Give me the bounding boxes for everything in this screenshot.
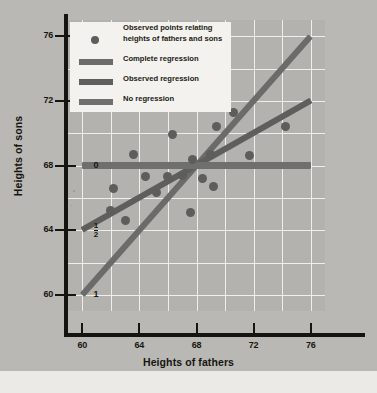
legend-item: Observed points relatingheights of fathe…	[71, 27, 230, 45]
x-axis-tick	[253, 323, 255, 334]
data-point	[281, 122, 290, 131]
data-point	[141, 172, 150, 181]
y-axis-tick	[55, 100, 64, 102]
x-axis-tick	[196, 323, 198, 334]
chart-figure: 76726864606064687276 0121 Heights of fat…	[0, 0, 377, 393]
y-axis-tick	[55, 35, 64, 37]
chart-legend: Observed points relatingheights of fathe…	[70, 22, 231, 112]
x-axis-tick	[81, 323, 83, 334]
paper-speckle	[71, 205, 72, 206]
y-axis-tick-label: 76	[13, 30, 53, 40]
y-axis-tick	[55, 229, 64, 231]
y-axis-tick-inner	[68, 294, 76, 296]
legend-item: Complete regression	[71, 53, 230, 71]
data-point	[129, 150, 138, 159]
data-point	[168, 130, 177, 139]
legend-marker-dot-icon	[91, 36, 99, 44]
legend-item-label: Complete regression	[123, 54, 199, 65]
x-axis-tick-label: 76	[291, 340, 331, 350]
data-point	[245, 151, 254, 160]
x-axis-tick-label: 64	[119, 340, 159, 350]
data-point	[152, 188, 161, 197]
coefficient-mark-1-2: 12	[84, 222, 108, 238]
legend-item-label: Observed regression	[123, 74, 199, 85]
y-axis-tick	[55, 294, 64, 296]
x-axis-tick-label: 68	[177, 340, 217, 350]
data-point	[198, 174, 207, 183]
legend-item-label: No regression	[123, 94, 174, 105]
x-axis-tick-label: 72	[234, 340, 274, 350]
y-axis-tick-inner	[68, 165, 76, 167]
y-axis-line	[64, 14, 68, 337]
legend-item-label-line2: heights of fathers and sons	[123, 34, 222, 45]
data-point	[178, 171, 187, 180]
coefficient-mark-1: 1	[84, 289, 108, 299]
gridline-horizontal	[68, 133, 325, 134]
x-axis-tick	[310, 323, 312, 334]
legend-marker-line-icon	[79, 99, 113, 105]
data-point	[121, 216, 130, 225]
data-point	[212, 122, 221, 131]
x-axis-title: Heights of fathers	[0, 356, 377, 368]
legend-item: Observed regression	[71, 73, 230, 91]
y-axis-title: Heights of sons	[12, 86, 24, 226]
legend-item: No regression	[71, 93, 230, 111]
x-axis-line	[64, 333, 365, 337]
data-point	[188, 155, 197, 164]
regression-line-no-regression	[82, 162, 310, 169]
legend-marker-line-icon	[79, 79, 113, 85]
coefficient-mark-0: 0	[84, 160, 108, 170]
x-axis-tick	[138, 323, 140, 334]
figure-footer-background	[0, 371, 377, 393]
x-axis-tick-label: 60	[62, 340, 102, 350]
data-point	[206, 150, 215, 159]
paper-speckle	[73, 190, 75, 192]
data-point	[209, 182, 218, 191]
legend-item-label-line1: Observed points relating	[123, 23, 222, 34]
data-point	[186, 208, 195, 217]
legend-item-label: Observed points relatingheights of fathe…	[123, 23, 222, 44]
y-axis-tick-label: 60	[13, 289, 53, 299]
y-axis-tick	[55, 165, 64, 167]
data-point	[109, 184, 118, 193]
gridline-horizontal	[68, 198, 325, 199]
legend-marker-line-icon	[79, 59, 113, 65]
y-axis-tick-inner	[68, 229, 76, 231]
